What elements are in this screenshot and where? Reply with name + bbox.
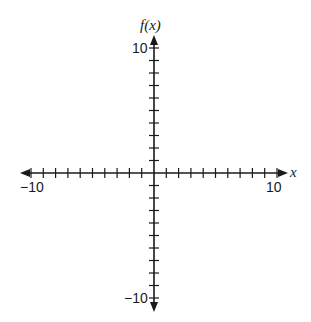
y-axis-label: f(x) (140, 17, 161, 34)
y-max-label: 10 (132, 40, 148, 56)
right-arrow-icon (278, 169, 288, 177)
up-arrow-icon (150, 35, 158, 45)
coordinate-plane: f(x) x −10 10 10 −10 (0, 0, 311, 322)
down-arrow-icon (150, 302, 158, 312)
x-axis-label: x (289, 164, 297, 180)
y-min-label: −10 (124, 290, 148, 306)
x-min-label: −10 (20, 179, 44, 195)
x-max-label: 10 (266, 179, 282, 195)
left-arrow-icon (20, 169, 30, 177)
